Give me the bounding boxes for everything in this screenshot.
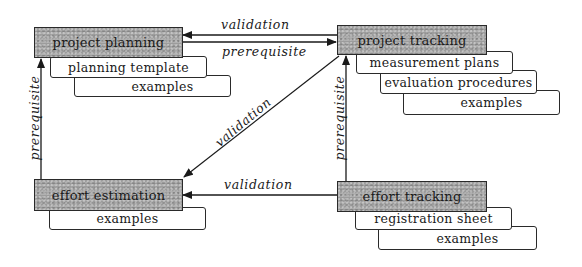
edge-label-prerequisite-right: prerequisite xyxy=(332,76,347,161)
doc-label: examples xyxy=(437,231,499,246)
doc-label: examples xyxy=(97,211,159,226)
node-label: project planning xyxy=(53,35,165,50)
node-label: effort tracking xyxy=(363,189,462,204)
node-label: project tracking xyxy=(357,33,466,48)
edge-label-prerequisite-left: prerequisite xyxy=(27,76,42,161)
edge-label-validation-bottom: validation xyxy=(224,177,293,192)
doc-label: measurement plans xyxy=(370,55,500,70)
node-project-planning[interactable]: project planning xyxy=(34,27,183,58)
doc-planning-examples[interactable]: examples xyxy=(74,75,231,97)
doc-label: examples xyxy=(132,79,194,94)
doc-label: evaluation procedures xyxy=(384,75,532,90)
doc-label: planning template xyxy=(68,60,189,75)
node-effort-estimation[interactable]: effort estimation xyxy=(34,179,183,211)
edge-label-validation-top: validation xyxy=(221,17,290,32)
node-label: effort estimation xyxy=(52,188,166,203)
doc-label: examples xyxy=(461,95,523,110)
node-effort-tracking[interactable]: effort tracking xyxy=(337,181,487,212)
diagram-canvas: validation prerequisite prerequisite val… xyxy=(0,0,582,267)
doc-planning-template[interactable]: planning template xyxy=(50,56,207,78)
node-project-tracking[interactable]: project tracking xyxy=(337,25,487,55)
doc-label: registration sheet xyxy=(374,211,493,226)
edge-label-prerequisite-top: prerequisite xyxy=(222,44,307,59)
edge-label-validation-diagonal: validation xyxy=(212,94,274,150)
